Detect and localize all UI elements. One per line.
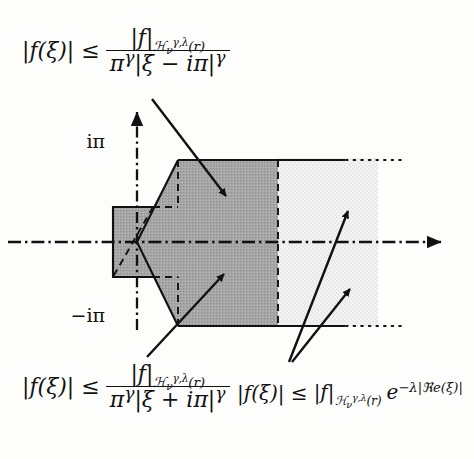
strip-domain-diagram: iπ −iπ: [0, 0, 474, 459]
tick-label-upper: iπ: [86, 130, 105, 152]
tick-label-lower: −iπ: [71, 304, 105, 326]
figure-canvas: |f(ξ)| ≤|f|ℋνγ,λ(r)πγ|ξ − iπ|γ |f(ξ)| ≤|…: [0, 0, 474, 459]
